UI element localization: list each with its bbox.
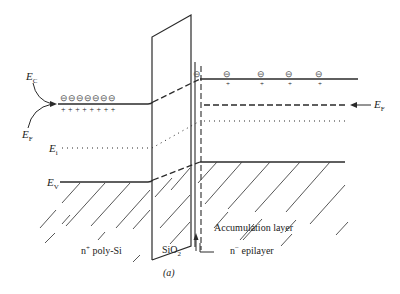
ec-dashed-bend [153,79,200,102]
ev-dashed-bend [153,162,200,180]
right-electron-2: ⊖ [223,70,231,79]
ev-label: EV [47,177,59,191]
band-diagram-drawing [0,0,400,294]
right-electron-1: ⊖ [193,70,201,79]
ei-label: Ei [49,143,58,157]
right-electron-5: ⊖ [315,70,323,79]
figure-caption: (a) [163,268,175,278]
oxide-region [152,15,191,260]
right-hatch [198,162,348,246]
accumulation-leader [200,243,214,252]
accumulation-label: Accumulation layer [214,223,293,233]
ec-label: EC [26,71,37,85]
right-electron-3: ⊖ [257,70,265,79]
ei-dotted-bend [152,121,200,148]
ef-right-label: EF [374,99,385,113]
band-diagram: ⊖⊖⊖⊖⊖⊖⊖ + + + + + + + + ⊖ ⊖ ⊖ ⊖ ⊖ + + + … [0,0,400,294]
right-plus-3: + [288,81,292,88]
right-plus-2: + [260,81,264,88]
left-holes: + + + + + + + + [61,106,116,114]
poly-si-label: n+ poly-Si [81,245,122,256]
ec-curve-arrow [33,83,52,104]
right-plus-1: + [226,81,230,88]
right-plus-4: + [318,81,322,88]
ef-left-label: EF [22,129,33,143]
epilayer-label: n− epilayer [230,245,274,256]
ef-curve-arrow [28,104,52,128]
right-electron-4: ⊖ [285,70,293,79]
oxide-label: SiO2 [162,245,181,258]
left-electrons: ⊖⊖⊖⊖⊖⊖⊖ [60,94,116,103]
